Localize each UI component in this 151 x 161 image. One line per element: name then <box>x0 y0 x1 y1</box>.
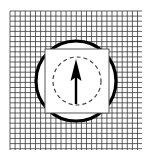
figure-container <box>0 0 151 161</box>
figure-svg <box>0 0 151 161</box>
